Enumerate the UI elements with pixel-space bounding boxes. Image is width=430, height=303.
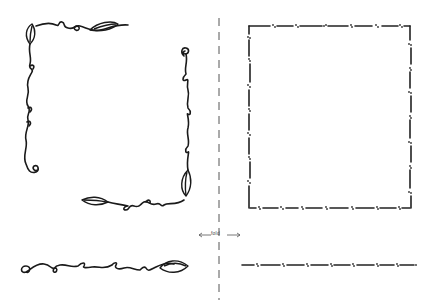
vine-corner-top-left xyxy=(25,22,128,173)
dotted-dash-horizontal-border xyxy=(242,263,417,267)
dotted-dash-square-frame xyxy=(247,24,412,210)
fold-label: fold xyxy=(211,230,220,236)
vine-corner-bottom-right xyxy=(82,48,191,210)
drawing-canvas xyxy=(0,0,430,303)
vine-horizontal-border xyxy=(22,261,189,272)
fold-guide xyxy=(199,18,240,300)
dot-clusters xyxy=(247,24,412,210)
